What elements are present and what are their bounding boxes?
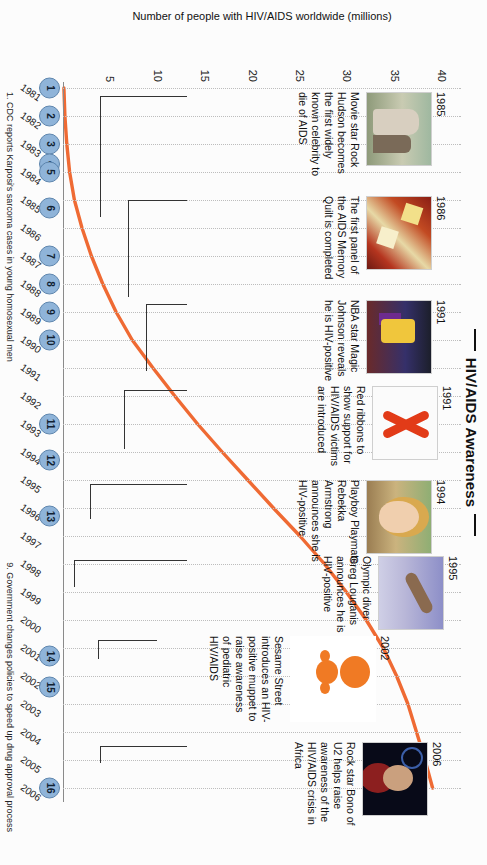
x-axis-label: Year of Occurrence <box>0 391 1 485</box>
y-axis-label: Number of people with HIV/AIDS worldwide… <box>132 10 391 22</box>
y-tick-label: 30 <box>341 54 353 82</box>
event-photo-rock-hudson <box>366 92 432 166</box>
leader-line <box>100 746 187 763</box>
y-tick-label: 5 <box>104 54 116 82</box>
leader-line <box>128 200 187 297</box>
event-photo-sesame-street <box>290 636 376 722</box>
event-photo-magic-johnson <box>366 300 432 374</box>
event-year: 2002 <box>379 636 391 728</box>
event-year: 1995 <box>447 556 459 648</box>
page-title: HIV/AIDS Awareness <box>463 358 480 507</box>
leader-line <box>90 484 187 519</box>
timeline-marker-7[interactable]: 7 <box>39 246 60 267</box>
x-tick-label: 2004 <box>19 726 44 748</box>
event-year: 1986 <box>435 196 447 288</box>
leader-line <box>74 560 187 587</box>
leader-line <box>100 96 187 217</box>
event-callout-sesame-street[interactable]: 2002Sesame Street introduces an HIV-posi… <box>207 636 391 728</box>
x-axis-line <box>63 82 64 802</box>
x-tick-label: 2000 <box>19 614 44 636</box>
timeline-marker-11[interactable]: 11 <box>39 414 60 435</box>
infographic-frame: HIV/AIDS Awareness Number of people with… <box>0 0 487 865</box>
timeline-marker-9[interactable]: 9 <box>39 302 60 323</box>
event-year: 1985 <box>435 92 447 184</box>
event-callout-rock-hudson[interactable]: 1985Movie star Rock Hudson becomes the f… <box>296 92 447 184</box>
timeline-marker-16[interactable]: 16 <box>39 778 60 799</box>
x-tick-label: 1998 <box>19 558 44 580</box>
x-tick-label: 1986 <box>19 222 44 244</box>
grid-line <box>63 88 461 89</box>
x-tick-label: 2003 <box>19 698 44 720</box>
event-description: Red ribbons to show support for HIV/AIDS… <box>315 386 367 474</box>
event-callout-memory-quilt[interactable]: 1986The first panel of the AIDS Memory Q… <box>322 196 447 288</box>
event-photo-red-ribbons <box>372 386 438 460</box>
event-description: Sesame Street introduces an HIV-positive… <box>207 636 285 724</box>
x-tick-label: 1991 <box>19 362 44 384</box>
leader-line <box>146 304 187 371</box>
timeline-marker-12[interactable]: 12 <box>39 450 60 471</box>
timeline-marker-3[interactable]: 3 <box>39 134 60 155</box>
timeline-marker-15[interactable]: 15 <box>39 677 60 698</box>
x-tick-label: 1992 <box>19 390 44 412</box>
footnotes: 1. CDC reports Karposi's sarcoma cases i… <box>4 92 16 832</box>
event-year: 1991 <box>441 386 453 478</box>
event-callout-bono[interactable]: 2006Rock star Bono of U2 helps raise awa… <box>292 742 443 834</box>
timeline-marker-5[interactable]: 5 <box>39 162 60 183</box>
x-tick-label: 1995 <box>19 474 44 496</box>
leader-line <box>124 390 187 449</box>
title-rule-left <box>474 329 476 351</box>
x-tick-label: 1997 <box>19 530 44 552</box>
y-tick-label: 35 <box>389 54 401 82</box>
timeline-marker-6[interactable]: 6 <box>39 198 60 219</box>
event-callout-greg-louganis[interactable]: 1995Olympic diver Greg Louganis announce… <box>321 556 459 648</box>
event-description: Olympic diver Greg Louganis announces he… <box>321 556 373 644</box>
x-tick-label: 1999 <box>19 586 44 608</box>
event-description: Rock star Bono of U2 helps raise awarene… <box>292 742 357 830</box>
event-photo-memory-quilt <box>366 196 432 270</box>
event-callout-red-ribbons[interactable]: 1991Red ribbons to show support for HIV/… <box>315 386 453 478</box>
leader-line <box>98 640 157 659</box>
event-year: 2006 <box>431 742 443 834</box>
event-description: NBA star Magic Johnson reveals he is HIV… <box>322 300 361 388</box>
event-description: Movie star Rock Hudson becomes the first… <box>296 92 361 180</box>
event-photo-greg-louganis <box>378 556 444 630</box>
timeline-marker-13[interactable]: 13 <box>39 506 60 527</box>
timeline-marker-1[interactable]: 1 <box>39 78 60 99</box>
event-description: Playboy Playmate Rebekka Armstrong annou… <box>296 480 361 568</box>
title-rule-right <box>474 514 476 536</box>
chart-title-bar: HIV/AIDS Awareness <box>463 0 481 865</box>
grid-line <box>63 732 461 733</box>
x-tick-label: 2005 <box>19 754 44 776</box>
y-tick-label: 40 <box>436 54 448 82</box>
infographic-canvas: HIV/AIDS Awareness Number of people with… <box>0 0 487 865</box>
y-tick-label: 20 <box>247 54 259 82</box>
footnote-1: 1. CDC reports Karposi's sarcoma cases i… <box>4 92 16 362</box>
y-tick-label: 15 <box>199 54 211 82</box>
event-photo-rebekka-armstrong <box>366 480 432 554</box>
timeline-marker-10[interactable]: 10 <box>39 330 60 351</box>
event-photo-bono <box>362 742 428 816</box>
timeline-marker-8[interactable]: 8 <box>39 274 60 295</box>
timeline-marker-14[interactable]: 14 <box>39 646 60 667</box>
event-callout-magic-johnson[interactable]: 1991NBA star Magic Johnson reveals he is… <box>322 300 447 392</box>
footnote-9: 9. Government changes policies to speed … <box>4 562 16 832</box>
y-tick-label: 25 <box>294 54 306 82</box>
y-tick-label: 10 <box>152 54 164 82</box>
timeline-marker-2[interactable]: 2 <box>39 106 60 127</box>
event-year: 1991 <box>435 300 447 392</box>
event-description: The first panel of the AIDS Memory Quilt… <box>322 196 361 284</box>
